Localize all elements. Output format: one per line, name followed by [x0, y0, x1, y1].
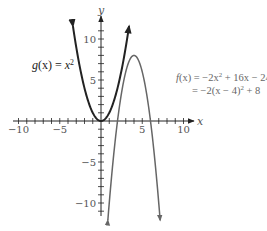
x-axis-label: x	[197, 115, 204, 128]
f-equation-label: f(x) = −2x2 + 16x − 24 = −2(x − 4)2 + 8	[176, 71, 267, 97]
x-tick-label: 5	[139, 124, 145, 135]
x-tick-label: 10	[177, 124, 190, 135]
g-equation-exponent: 2	[70, 58, 74, 67]
axes	[13, 16, 194, 216]
x-tick-label: −5	[52, 124, 67, 135]
f-line1-rest: (x) = −2x	[179, 72, 219, 83]
f-equation-line-2: = −2(x − 4)2 + 8	[176, 84, 267, 97]
y-tick-label: 10	[83, 34, 96, 45]
f-line2-pre: = −2(x − 4)	[192, 85, 240, 96]
f-line2-tail: + 8	[244, 85, 260, 96]
x-tick-label: −10	[8, 124, 29, 135]
y-tick-label: −10	[75, 198, 96, 209]
g-equation-middle: (x) =	[38, 58, 65, 72]
f-line1-tail: + 16x − 24	[222, 72, 267, 83]
g-equation-label: g(x) = x2	[32, 58, 74, 73]
curve-f-downward-parabola	[108, 55, 160, 220]
f-equation-line-1: f(x) = −2x2 + 16x − 24	[176, 72, 267, 83]
function-graph: −10−5510−10−5510 x y	[0, 0, 267, 231]
y-tick-label: −5	[81, 157, 96, 168]
y-tick-label: 5	[90, 75, 96, 86]
y-axis-label: y	[97, 4, 105, 17]
